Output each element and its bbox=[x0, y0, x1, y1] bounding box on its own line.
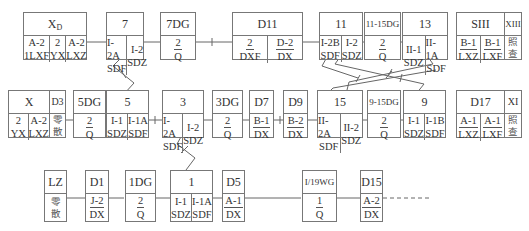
box-header: 1 bbox=[171, 171, 212, 194]
cell: A-2LXZ bbox=[29, 114, 49, 140]
cell-bottom: SDF bbox=[163, 140, 182, 153]
cell-top: 2 bbox=[55, 36, 60, 49]
cell-top: I-1A bbox=[192, 195, 212, 208]
box-1: 1 I-1SDZ I-1ASDF bbox=[170, 170, 213, 222]
cell-bottom: SDF bbox=[192, 208, 211, 221]
box-header: 3 bbox=[163, 91, 203, 114]
cell-top: B-1 bbox=[460, 36, 478, 50]
cell-bottom: Q bbox=[379, 50, 387, 63]
cell-top: 2 bbox=[224, 114, 231, 128]
box-3: 3 I-2ASDF I-2SDZ bbox=[162, 90, 204, 138]
cell: I-1SDZ bbox=[107, 114, 128, 140]
cell-top: I-2A bbox=[107, 36, 126, 62]
box-header: 13 bbox=[403, 13, 447, 36]
cell: D-2DX bbox=[268, 36, 302, 63]
cell-top: 2 bbox=[246, 36, 253, 50]
cell-bottom: LXF bbox=[483, 50, 503, 63]
side-header: D3 bbox=[50, 91, 65, 114]
cell-bottom: LXZ bbox=[66, 49, 86, 62]
box-d9: D9 B-2DX bbox=[283, 90, 308, 138]
box-x: X 2YX A-2LXZ D3 零散 bbox=[8, 90, 66, 138]
cell-top: 2 bbox=[174, 36, 181, 50]
cell: 2Q bbox=[213, 114, 242, 141]
box-header: D1 bbox=[86, 171, 108, 194]
box-d1: D1 J-2DX bbox=[85, 170, 109, 222]
cell-bottom: 1LXF bbox=[24, 49, 49, 62]
cell: I-1BSDF bbox=[425, 114, 445, 140]
side-text: 照查 bbox=[505, 36, 521, 60]
cell: I-1SDZ bbox=[404, 114, 425, 140]
cell-bottom: DX bbox=[254, 128, 269, 141]
side-header: XI bbox=[505, 91, 521, 114]
cell-bottom: SDZ bbox=[404, 127, 424, 140]
box-lz: LZ 零散 bbox=[44, 170, 67, 222]
cell: I-1ASDF bbox=[128, 114, 148, 140]
box-13: 13 II-1SDZ II-1ASDF bbox=[402, 12, 448, 60]
cell-top: B-1 bbox=[484, 36, 502, 50]
side-char: 查 bbox=[508, 48, 518, 60]
cell: B-2DX bbox=[284, 114, 307, 141]
cell: I-2SDZ bbox=[342, 36, 363, 62]
cell-top: A-2 bbox=[362, 194, 380, 208]
cell: 2Q bbox=[161, 36, 195, 63]
box-header: D9 bbox=[284, 91, 307, 114]
cell-bottom: Q bbox=[86, 128, 94, 141]
box-header: 15 bbox=[318, 91, 362, 114]
cell-bottom: SDZ bbox=[183, 134, 203, 147]
box-header: 1DG bbox=[126, 171, 155, 194]
cell-bottom: SDF bbox=[128, 127, 147, 140]
box-header: D11 bbox=[233, 13, 302, 36]
cell-top: I-1 bbox=[408, 114, 420, 127]
cell-top: 2 bbox=[137, 194, 144, 208]
cell-bottom: SDZ bbox=[127, 56, 147, 69]
cell-top: A-1 bbox=[459, 114, 477, 128]
box-5dg: 5DG 2Q bbox=[73, 90, 106, 138]
cell: I-2BSDF bbox=[320, 36, 342, 62]
cell-top: A-2 bbox=[68, 36, 84, 49]
cell-bottom: YX bbox=[11, 127, 26, 140]
box-header: 7 bbox=[107, 13, 143, 36]
box-d11: D11 2DXF D-2DX bbox=[232, 12, 303, 60]
cell: A-1LXZ bbox=[457, 114, 481, 141]
cell: II-1SDZ bbox=[403, 36, 426, 75]
cell-top: 2 bbox=[86, 114, 93, 128]
cell-top: I-1A bbox=[128, 114, 148, 127]
cell: B-1DX bbox=[250, 114, 273, 141]
box-header: 9-15DG bbox=[368, 91, 400, 114]
cell: A-21LXF bbox=[24, 36, 50, 62]
box-7dg: 7DG 2Q bbox=[160, 12, 196, 60]
cell-bottom: DX bbox=[277, 50, 292, 63]
box-header: 3DG bbox=[213, 91, 242, 114]
cell-top: I-2 bbox=[131, 43, 143, 56]
box-header: 11 bbox=[320, 13, 362, 36]
box-header: LZ bbox=[45, 171, 66, 194]
side-char: 查 bbox=[508, 126, 518, 138]
cell-top: 2 bbox=[16, 114, 21, 127]
side-char: 零 bbox=[53, 114, 63, 126]
cell-bottom: SDZ bbox=[107, 127, 127, 140]
cell-bottom: SDZ bbox=[342, 49, 362, 62]
cell: B-1LXF bbox=[481, 36, 504, 63]
cell-bottom: DX bbox=[226, 208, 241, 221]
cell: 2YX bbox=[50, 36, 66, 62]
cell: 2Q bbox=[365, 36, 400, 63]
cell: 1Q bbox=[303, 194, 336, 221]
cell-bottom: DX bbox=[364, 208, 379, 221]
cell: I-1ASDF bbox=[192, 194, 212, 221]
cell-top: I-2B bbox=[321, 36, 340, 49]
cell-bottom: SDF bbox=[319, 140, 338, 153]
cell-bottom: DX bbox=[89, 208, 104, 221]
cell-bottom: SDZ bbox=[404, 56, 424, 69]
box-header: D5 bbox=[223, 171, 244, 194]
cell-top: 1 bbox=[316, 194, 323, 208]
cell-bottom: Q bbox=[224, 128, 232, 141]
cell-top: A-2 bbox=[28, 36, 44, 49]
box-xd: XD A-21LXF 2YX A-2LXZ bbox=[23, 12, 87, 60]
cell-bottom: Q bbox=[316, 208, 324, 221]
box-header: D7 bbox=[250, 91, 273, 114]
box-header: 5 bbox=[107, 91, 148, 114]
cell: 2Q bbox=[74, 114, 105, 141]
cell-top: A-1 bbox=[224, 194, 242, 208]
cell-bottom: Q bbox=[137, 208, 145, 221]
cell: I-2ASDF bbox=[107, 36, 127, 75]
